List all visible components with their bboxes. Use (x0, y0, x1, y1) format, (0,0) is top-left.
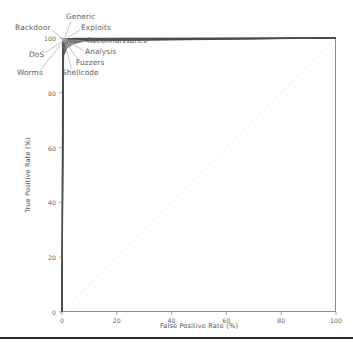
plot-overlay (0, 0, 353, 349)
y-tick-label: 100 (40, 35, 56, 42)
leader-line-generic (64, 21, 71, 40)
y-tick-label: 0 (40, 309, 56, 316)
leader-line-worms (41, 40, 64, 69)
class-label-analysis: Analysis (85, 47, 116, 56)
y-tick-label: 60 (40, 144, 56, 151)
class-label-shellcode: Shellcode (62, 68, 99, 77)
y-axis-title: True Positive Rate (%) (24, 137, 32, 213)
class-label-worms: Worms (17, 68, 43, 77)
class-label-generic: Generic (66, 12, 95, 21)
x-axis-title: False Positive Rate (%) (160, 322, 238, 330)
class-label-fuzzers: Fuzzers (76, 58, 104, 67)
leader-line-dos (45, 40, 64, 52)
chance-diagonal (62, 38, 336, 312)
x-tick-label: 100 (330, 317, 342, 324)
y-tick-label: 40 (40, 199, 56, 206)
class-label-backdoor: Backdoor (15, 23, 51, 32)
x-tick-label: 0 (60, 317, 64, 324)
y-tick-label: 80 (40, 89, 56, 96)
x-tick-label: 20 (113, 317, 121, 324)
y-tick-label: 20 (40, 254, 56, 261)
class-label-reconnaissance: Reconnaissance (87, 36, 148, 45)
class-label-exploits: Exploits (81, 23, 111, 32)
roc-curve-figure: 020406080100 020406080100 GenericBackdoo… (0, 0, 353, 349)
chance-diagonal-line (62, 38, 336, 312)
page-bottom-rule (0, 337, 353, 339)
x-tick-label: 80 (277, 317, 285, 324)
class-label-dos: DoS (29, 50, 44, 59)
